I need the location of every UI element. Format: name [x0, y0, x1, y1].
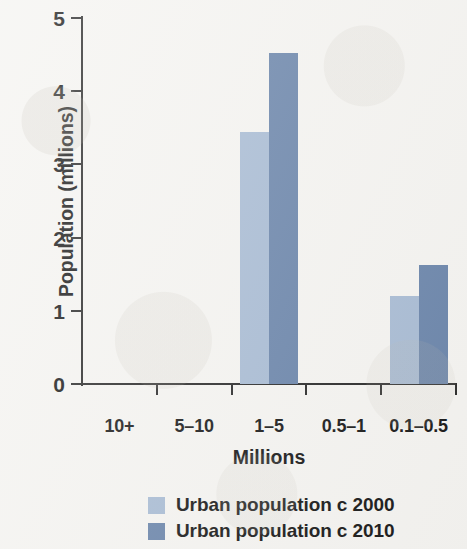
y-axis-tick: 5 — [71, 17, 82, 19]
x-axis-tick — [231, 384, 233, 395]
x-axis-tick — [156, 384, 158, 395]
x-axis-tick — [380, 384, 382, 395]
x-axis-category-label: 1–5 — [254, 416, 283, 437]
plot-area: 01234510+5–101–50.5–10.1–0.5 — [82, 18, 456, 384]
x-axis-category-label: 0.5–1 — [322, 416, 366, 437]
chart-legend: Urban population c 2000Urban population … — [148, 492, 394, 544]
y-axis-tick-label: 2 — [53, 227, 65, 248]
legend-color-swatch — [148, 497, 165, 514]
bar-2000 — [240, 132, 269, 384]
legend-label: Urban population c 2010 — [176, 520, 394, 542]
y-axis-tick: 2 — [71, 237, 82, 239]
y-axis-tick-label: 4 — [53, 81, 65, 102]
y-axis-tick: 4 — [71, 90, 82, 92]
bar-2010 — [419, 265, 448, 384]
y-axis-tick: 1 — [71, 310, 82, 312]
x-axis-category-label: 0.1–0.5 — [389, 416, 448, 437]
x-axis-category-label: 5–10 — [175, 416, 214, 437]
x-axis-tick — [455, 384, 457, 395]
y-axis-tick: 0 — [71, 383, 82, 385]
y-axis-tick-label: 1 — [53, 300, 65, 321]
x-axis-tick — [305, 384, 307, 395]
y-axis-tick: 3 — [71, 163, 82, 165]
bar-2000 — [390, 296, 419, 384]
y-axis-tick-label: 3 — [53, 154, 65, 175]
legend-color-swatch — [148, 523, 165, 540]
bar-chart-figure: Population (millions) 01234510+5–101–50.… — [0, 0, 467, 549]
legend-item: Urban population c 2010 — [148, 518, 394, 544]
legend-label: Urban population c 2000 — [176, 494, 394, 516]
x-axis-title: Millions — [82, 446, 456, 469]
y-axis-tick-label: 5 — [53, 8, 65, 29]
legend-item: Urban population c 2000 — [148, 492, 394, 518]
y-axis-tick-label: 0 — [53, 374, 65, 395]
bar-2010 — [269, 53, 298, 384]
x-axis-category-label: 10+ — [104, 416, 134, 437]
